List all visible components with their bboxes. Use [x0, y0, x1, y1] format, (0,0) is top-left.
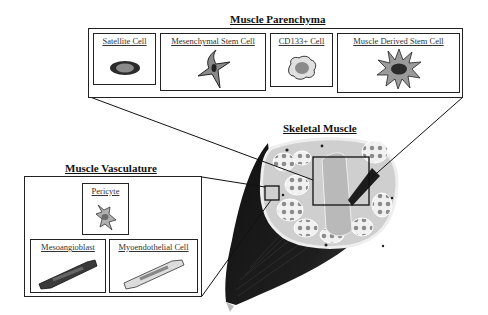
cd133-cell-label: CD133+ Cell: [271, 36, 332, 46]
myoendothelial-cell-box: Myoendothelial Cell: [109, 239, 198, 293]
mesenchymal-stem-cell-box: Mesenchymal Stem Cell: [160, 33, 266, 91]
muscle-derived-stem-cell-label: Muscle Derived Stem Cell: [338, 36, 459, 46]
satellite-cell-label: Satellite Cell: [94, 36, 155, 46]
spiky-cell-icon: [376, 48, 422, 90]
light-elongated-cell-icon: [122, 256, 188, 290]
skeletal-muscle-illustration: [225, 139, 397, 312]
pericyte-box: Pericyte: [82, 183, 129, 235]
skeletal-muscle-title: Skeletal Muscle: [283, 122, 357, 134]
cd133-cell-box: CD133+ Cell: [270, 33, 333, 87]
mesoangioblast-box: Mesoangioblast: [30, 239, 106, 293]
pericyte-label: Pericyte: [83, 186, 128, 196]
mesenchymal-stem-cell-label: Mesenchymal Stem Cell: [161, 36, 265, 46]
parenchyma-panel: Satellite Cell Mesenchymal Stem Cell CD1…: [88, 28, 463, 98]
mesoangioblast-label: Mesoangioblast: [31, 242, 105, 252]
round-blob-cell-icon: [285, 54, 319, 82]
star-cell-icon: [194, 48, 234, 90]
muscle-derived-stem-cell-box: Muscle Derived Stem Cell: [337, 33, 460, 93]
myoendothelial-cell-label: Myoendothelial Cell: [110, 242, 197, 252]
vasculature-panel: Pericyte Mesoangioblast Myoendothelial C…: [24, 176, 202, 297]
oval-cell-icon: [108, 58, 142, 78]
vasculature-title: Muscle Vasculature: [65, 162, 157, 174]
parenchyma-title: Muscle Parenchyma: [230, 13, 325, 25]
satellite-cell-box: Satellite Cell: [93, 33, 156, 85]
connector-line: [369, 97, 463, 180]
pericyte-cell-icon: [94, 202, 118, 232]
dark-elongated-cell-icon: [37, 256, 101, 290]
